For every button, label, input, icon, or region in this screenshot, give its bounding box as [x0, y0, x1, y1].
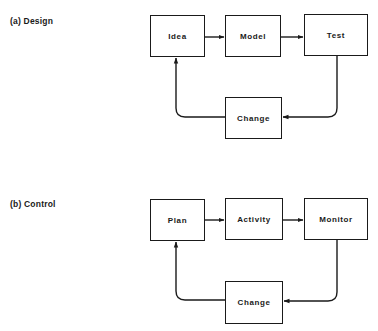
- arrow-test-to-change: [283, 56, 337, 117]
- connector-arrows: [0, 0, 378, 331]
- arrow-monitor-to-change: [284, 240, 337, 301]
- arrow-change-to-plan: [176, 242, 225, 300]
- arrow-change-to-idea: [176, 58, 225, 117]
